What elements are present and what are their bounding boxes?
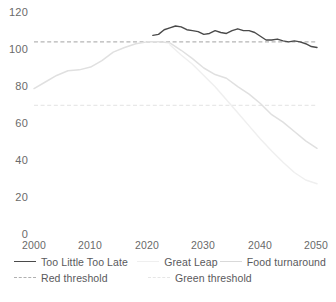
legend-dashed-line-icon: [148, 273, 170, 283]
legend-row-2: Red threshold Green threshold: [14, 270, 326, 286]
legend-dashed-line-icon: [14, 273, 36, 283]
legend-line-icon: [220, 257, 242, 267]
line-chart: 120 100 80 60 40 20 0 2000 2010 2020 203…: [0, 0, 336, 302]
series-food-turnaround: [34, 42, 317, 148]
series-too-little-too-late: [153, 26, 317, 47]
legend-item-food-turnaround[interactable]: Food turnaround: [220, 254, 326, 270]
legend-row-1: Too Little Too Late Great Leap Food turn…: [14, 254, 326, 270]
legend-label: Red threshold: [41, 272, 108, 284]
legend-label: Food turnaround: [247, 256, 326, 268]
legend-item-green-threshold[interactable]: Green threshold: [148, 270, 252, 286]
threshold-lines: [34, 42, 317, 105]
legend-label: Great Leap: [164, 256, 218, 268]
series-great-leap: [170, 45, 317, 184]
legend-line-icon: [137, 257, 159, 267]
legend-label: Green threshold: [175, 272, 252, 284]
legend-item-great-leap[interactable]: Great Leap: [137, 254, 220, 270]
legend-line-icon: [14, 257, 36, 267]
legend-item-red-threshold[interactable]: Red threshold: [14, 270, 148, 286]
legend-label: Too Little Too Late: [41, 256, 128, 268]
chart-legend: Too Little Too Late Great Leap Food turn…: [14, 254, 326, 286]
legend-item-too-little-too-late[interactable]: Too Little Too Late: [14, 254, 137, 270]
